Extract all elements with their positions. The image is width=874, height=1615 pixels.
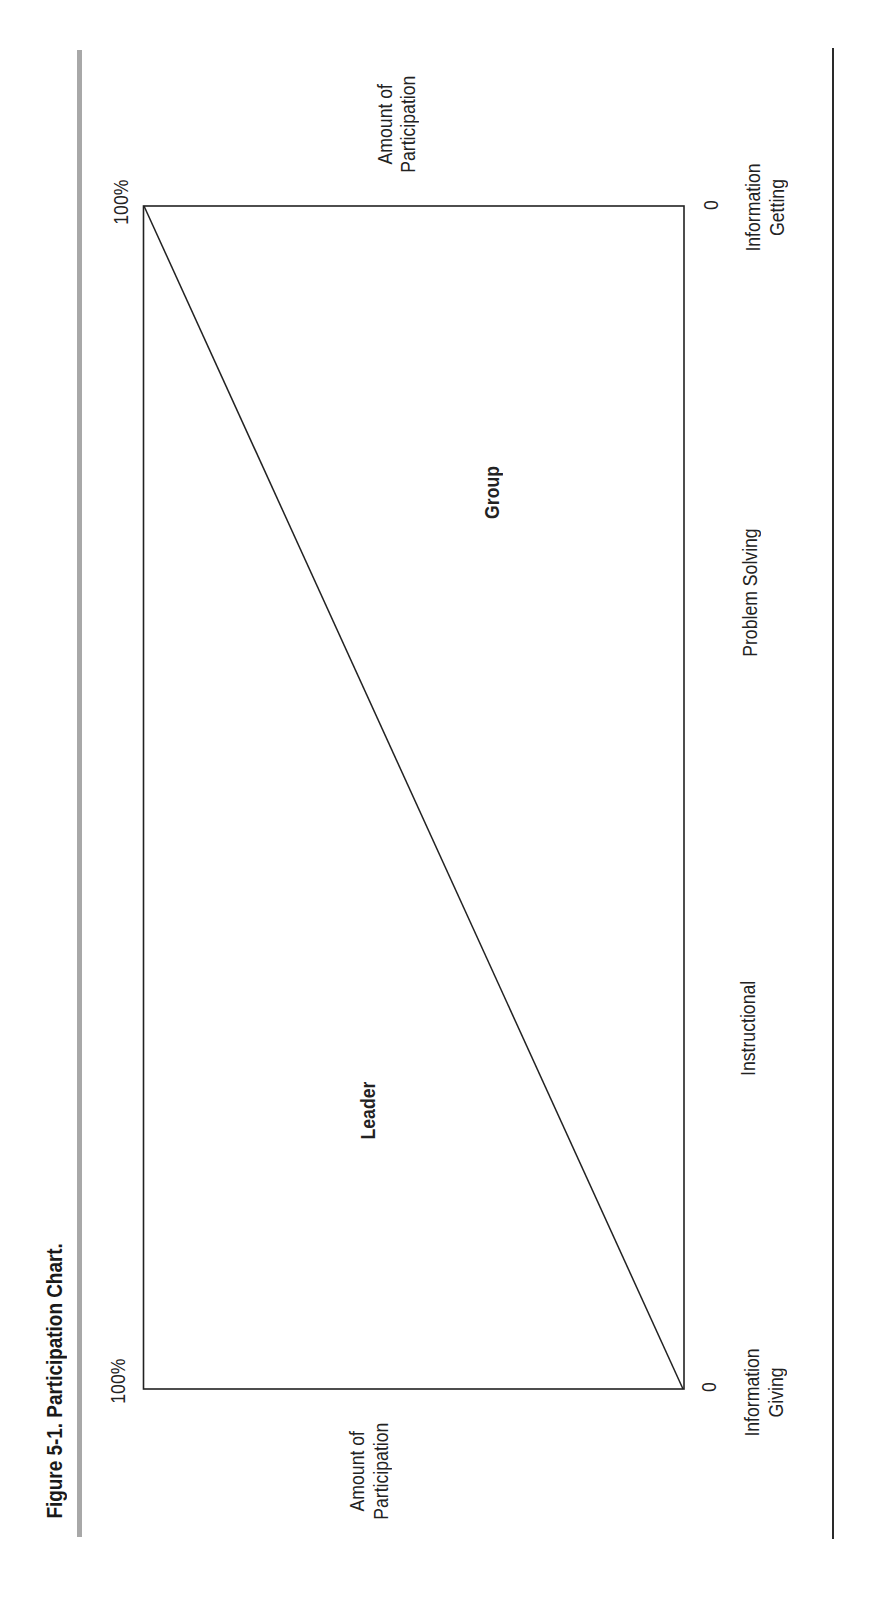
figure-title-text: Figure 5-1. Participation Chart. xyxy=(43,1243,68,1518)
x-axis-label-information-getting: Information Getting xyxy=(741,147,791,267)
x-axis-label-problem-solving: Problem Solving xyxy=(738,503,762,683)
x-axis-label-information-giving: Information Giving xyxy=(740,1332,790,1452)
region-label-group: Group xyxy=(480,453,504,533)
figure-title: Figure 5-1. Participation Chart. xyxy=(43,1221,67,1541)
y-axis-title-top: Amount of Participation xyxy=(349,54,399,194)
y-axis-zero-label-top: 0 xyxy=(699,193,723,217)
x-axis-label-instructional: Instructional xyxy=(736,958,760,1098)
region-label-leader: Leader xyxy=(356,1066,380,1156)
y-axis-max-label-top: 100% xyxy=(109,172,133,232)
leader-group-divider-line xyxy=(144,206,683,1389)
y-axis-zero-label-bottom: 0 xyxy=(697,1375,721,1399)
y-axis-title-bottom: Amount of Participation xyxy=(345,1401,395,1541)
y-axis-max-label-bottom: 100% xyxy=(106,1351,130,1411)
